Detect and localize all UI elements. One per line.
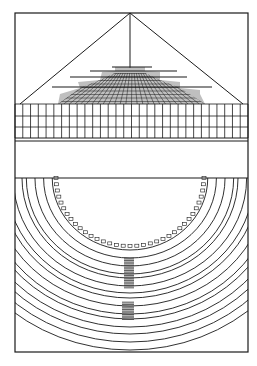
floor-grid xyxy=(15,104,248,138)
orchestra-band xyxy=(15,141,248,178)
outer-frame xyxy=(15,13,248,352)
seat-markers xyxy=(54,177,206,248)
aisle-stairs xyxy=(122,258,134,320)
theater-engraving xyxy=(0,0,257,366)
stepped-stage xyxy=(50,67,215,104)
